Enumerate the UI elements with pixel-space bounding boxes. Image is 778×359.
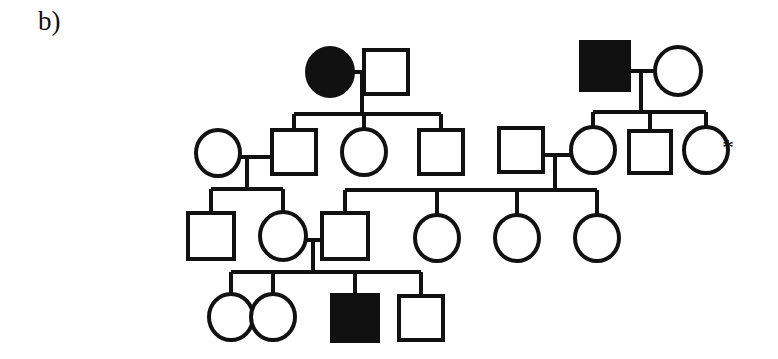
gen3-individual-5[interactable]: [495, 215, 539, 261]
gen3-individual-6[interactable]: [575, 215, 619, 261]
gen4-individual-2[interactable]: [251, 294, 295, 340]
gen4-individual-4[interactable]: [399, 296, 443, 340]
connector-layer: [211, 71, 706, 296]
gen1-individual-1[interactable]: [307, 48, 353, 96]
gen2-individual-5[interactable]: [499, 128, 543, 172]
gen1-individual-4[interactable]: [655, 47, 701, 95]
gen2-individual-2[interactable]: [272, 130, 316, 174]
pedigree-figure-page: b) *: [0, 0, 778, 359]
gen3-individual-2[interactable]: [260, 212, 306, 260]
gen3-individual-3[interactable]: [322, 213, 368, 259]
pedigree-diagram: [0, 0, 778, 359]
gen1-individual-2[interactable]: [364, 50, 408, 94]
gen4-individual-1[interactable]: [209, 294, 253, 340]
gen3-individual-4[interactable]: [415, 215, 459, 261]
gen2-individual-7[interactable]: [629, 131, 671, 173]
gen2-individual-4[interactable]: [419, 130, 463, 174]
gen2-individual-3[interactable]: [342, 129, 386, 175]
gen3-individual-1[interactable]: [188, 213, 234, 259]
gen2-individual-6[interactable]: [571, 127, 615, 173]
gen1-individual-3[interactable]: [581, 42, 629, 90]
gen2-individual-1[interactable]: [196, 130, 240, 176]
asterisk-marker: *: [722, 135, 734, 159]
gen4-individual-3[interactable]: [332, 295, 378, 341]
